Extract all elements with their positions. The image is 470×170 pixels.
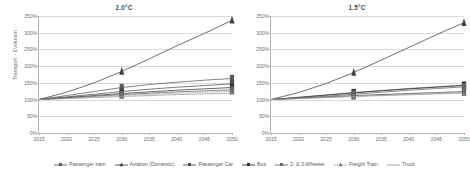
legend-swatch-square-icon bbox=[275, 162, 288, 168]
legend-item[interactable]: 2- & 3-Wheeler bbox=[275, 162, 325, 168]
y-axis-tick-mark bbox=[37, 49, 39, 50]
y-axis-tick-label: 250% bbox=[24, 46, 37, 52]
legend-label: Truck bbox=[402, 162, 415, 167]
x-axis-tick-label: 2015 bbox=[33, 136, 44, 142]
x-axis-tick-label: 2015 bbox=[265, 136, 276, 142]
x-axis-tick-mark bbox=[436, 133, 437, 135]
y-axis-tick-label: 100% bbox=[24, 97, 37, 103]
y-axis-tick-label: 100% bbox=[256, 97, 269, 103]
legend-item[interactable]: Freight Train bbox=[334, 162, 378, 168]
x-axis-tick-mark bbox=[149, 133, 150, 135]
x-axis-tick-label: 2030 bbox=[116, 136, 127, 142]
x-axis-tick-mark bbox=[381, 133, 382, 135]
legend-swatch-square-icon bbox=[54, 162, 67, 168]
x-axis-tick-mark bbox=[67, 133, 68, 135]
x-axis-tick-label: 2045 bbox=[199, 136, 210, 142]
plot-area-15c: 0%50%100%150%200%250%300%350%20152020202… bbox=[270, 16, 464, 134]
y-axis-tick-label: 200% bbox=[256, 63, 269, 69]
y-axis-tick-mark bbox=[37, 66, 39, 67]
x-axis-tick-mark bbox=[464, 133, 465, 135]
x-axis-tick-label: 2035 bbox=[144, 136, 155, 142]
legend-label: Freight Train bbox=[349, 162, 378, 167]
x-axis-tick-label: 2050 bbox=[458, 136, 469, 142]
legend-item[interactable]: Truck bbox=[387, 162, 415, 168]
chart-title-2c: 2.0°C bbox=[12, 4, 236, 11]
y-axis-tick-mark bbox=[37, 116, 39, 117]
plot-area-2c: 0%50%100%150%200%250%300%350%20152020202… bbox=[38, 16, 232, 134]
x-axis-tick-mark bbox=[39, 133, 40, 135]
legend-swatch-triangle-icon bbox=[334, 162, 347, 168]
y-axis-tick-label: 50% bbox=[27, 113, 37, 119]
x-axis-tick-mark bbox=[232, 133, 233, 135]
y-axis-tick-label: 150% bbox=[24, 80, 37, 86]
x-axis-tick-label: 2025 bbox=[89, 136, 100, 142]
x-axis-tick-label: 2050 bbox=[226, 136, 237, 142]
legend-item[interactable]: Aviation (Domestic) bbox=[115, 162, 175, 168]
x-axis-tick-label: 2040 bbox=[403, 136, 414, 142]
series-marker bbox=[229, 16, 234, 24]
legend-label: Passenger Car bbox=[198, 162, 233, 167]
y-axis-tick-label: 50% bbox=[259, 113, 269, 119]
x-axis-tick-mark bbox=[94, 133, 95, 135]
chart-title-15c: 1.5°C bbox=[246, 4, 468, 11]
x-axis-tick-mark bbox=[204, 133, 205, 135]
legend-swatch-square-icon bbox=[242, 162, 255, 168]
y-axis-tick-mark bbox=[269, 16, 271, 17]
legend-label: 2- & 3-Wheeler bbox=[290, 162, 325, 167]
x-axis-tick-label: 2020 bbox=[61, 136, 72, 142]
legend-label: Passenger train bbox=[69, 162, 105, 167]
y-axis-tick-label: 300% bbox=[256, 30, 269, 36]
chart-legend: Passenger trainAviation (Domestic)Passen… bbox=[0, 162, 469, 168]
x-axis-tick-mark bbox=[122, 133, 123, 135]
y-axis-tick-mark bbox=[269, 33, 271, 34]
legend-item[interactable]: Passenger Car bbox=[183, 162, 233, 168]
y-axis-tick-mark bbox=[269, 66, 271, 67]
series-lines-2c bbox=[39, 16, 232, 133]
x-axis-tick-label: 2025 bbox=[321, 136, 332, 142]
y-axis-tick-label: 250% bbox=[256, 46, 269, 52]
series-line bbox=[39, 20, 232, 99]
y-axis-tick-label: 350% bbox=[24, 13, 37, 19]
series-lines-15c bbox=[271, 16, 464, 133]
y-axis-tick-mark bbox=[37, 83, 39, 84]
legend-label: Aviation (Domestic) bbox=[130, 162, 175, 167]
y-axis-tick-label: 350% bbox=[256, 13, 269, 19]
x-axis-tick-mark bbox=[354, 133, 355, 135]
legend-swatch-triangle-icon bbox=[115, 162, 128, 168]
y-axis-tick-label: 200% bbox=[24, 63, 37, 69]
legend-item[interactable]: Bus bbox=[242, 162, 266, 168]
x-axis-tick-mark bbox=[409, 133, 410, 135]
chart-panel-15c: 1.5°C 0%50%100%150%200%250%300%350%20152… bbox=[246, 0, 468, 148]
x-axis-tick-mark bbox=[299, 133, 300, 135]
y-axis-tick-mark bbox=[37, 33, 39, 34]
y-axis-tick-mark bbox=[269, 83, 271, 84]
x-axis-tick-label: 2020 bbox=[293, 136, 304, 142]
y-axis-tick-mark bbox=[269, 100, 271, 101]
y-axis-tick-mark bbox=[37, 100, 39, 101]
legend-swatch-square-icon bbox=[183, 162, 196, 168]
series-line bbox=[271, 93, 464, 99]
series-line bbox=[271, 23, 464, 100]
y-axis-tick-mark bbox=[269, 49, 271, 50]
chart-panel-2c: 2.0°C 0%50%100%150%200%250%300%350%20152… bbox=[12, 0, 236, 148]
legend-label: Bus bbox=[257, 162, 266, 167]
y-axis-tick-mark bbox=[269, 116, 271, 117]
x-axis-tick-label: 2030 bbox=[348, 136, 359, 142]
series-marker bbox=[461, 18, 466, 26]
x-axis-tick-label: 2035 bbox=[376, 136, 387, 142]
x-axis-tick-mark bbox=[326, 133, 327, 135]
y-axis-tick-mark bbox=[37, 16, 39, 17]
x-axis-tick-label: 2045 bbox=[431, 136, 442, 142]
x-axis-tick-mark bbox=[271, 133, 272, 135]
y-axis-tick-label: 300% bbox=[24, 30, 37, 36]
legend-item[interactable]: Passenger train bbox=[54, 162, 105, 168]
x-axis-tick-mark bbox=[177, 133, 178, 135]
x-axis-tick-label: 2040 bbox=[171, 136, 182, 142]
y-axis-tick-label: 150% bbox=[256, 80, 269, 86]
legend-swatch-none-icon bbox=[387, 162, 400, 168]
